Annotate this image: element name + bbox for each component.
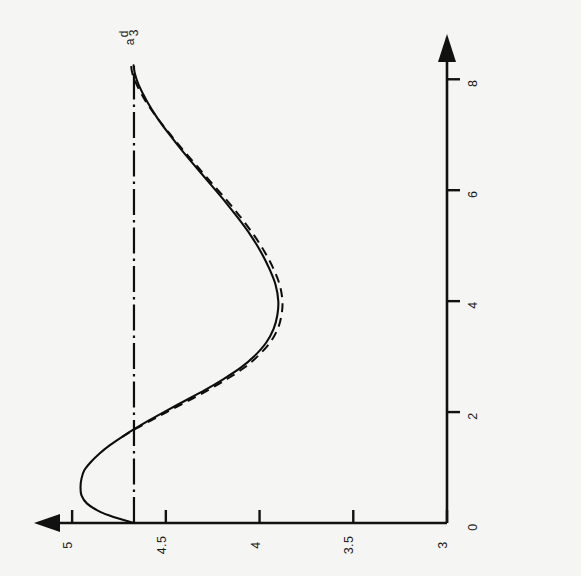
reference-level-label-text: a xyxy=(123,38,137,45)
value-axis: 33.544.55 xyxy=(34,510,450,554)
time-axis-ticklabel: 2 xyxy=(466,412,480,419)
time-axis: 02468 xyxy=(438,34,480,531)
chart-figure: 33.544.55 02468 a 3 d xyxy=(0,0,581,576)
value-axis-ticklabel: 3.5 xyxy=(342,536,356,555)
value-axis-ticklabel: 3 xyxy=(436,541,450,548)
value-axis-ticklabels: 33.544.55 xyxy=(61,536,450,555)
time-axis-ticklabel: 0 xyxy=(466,523,480,530)
chart-canvas: 33.544.55 02468 a 3 d xyxy=(0,0,581,576)
value-axis-ticklabel: 4.5 xyxy=(155,536,169,555)
time-axis-ticks xyxy=(447,79,460,412)
solid-curve xyxy=(81,65,279,523)
reference-level-label: a 3 d xyxy=(117,29,141,45)
time-axis-ticklabels: 02468 xyxy=(466,80,480,531)
time-axis-ticklabel: 8 xyxy=(466,80,480,87)
time-axis-ticklabel: 6 xyxy=(466,191,480,198)
value-axis-ticklabel: 4 xyxy=(249,541,263,548)
value-axis-ticklabel: 5 xyxy=(61,541,75,548)
dashed-curve xyxy=(122,65,283,437)
time-axis-arrowhead xyxy=(438,34,456,62)
reference-level-label-superscript: d xyxy=(117,31,131,38)
value-axis-arrowhead xyxy=(34,514,60,532)
time-axis-ticklabel: 4 xyxy=(466,301,480,308)
